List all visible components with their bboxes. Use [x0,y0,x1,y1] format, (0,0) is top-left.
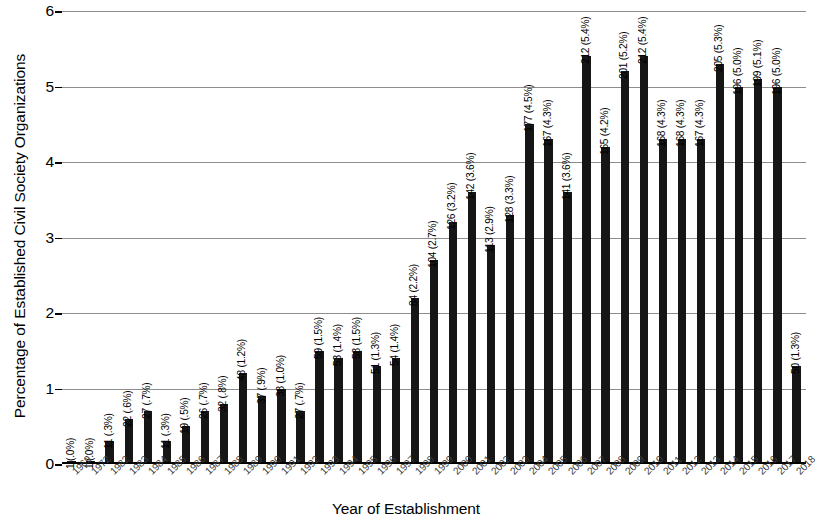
y-axis-tick-mark [55,11,62,13]
bar [353,351,361,464]
bar-value-label: 37 (.9%) [256,368,267,405]
y-axis-tick-label: 0 [28,455,54,473]
y-axis-tick-mark [55,238,62,240]
bar-value-label: 212 (5.4%) [637,17,648,64]
bar [239,373,247,464]
bar [792,366,800,464]
bar [640,56,648,464]
bar-value-label: 59 (1.5%) [313,317,324,359]
bar [277,389,285,465]
bar-value-label: 26 (.7%) [198,383,209,420]
bar-value-label: 104 (2.7%) [427,221,438,268]
y-axis-tick-label: 1 [28,380,54,398]
gridline [62,11,806,12]
bar-value-label: 22 (.6%) [122,390,133,427]
bar [601,147,609,464]
bar [525,124,533,464]
bar-value-label: 212 (5.4%) [580,17,591,64]
bar-value-label: 199 (5.1%) [752,40,763,87]
bar-value-label: 113 (2.9%) [484,206,495,253]
bar-value-label: 196 (5.0%) [732,47,743,94]
y-axis-tick-mark [55,87,62,89]
bar [582,56,590,464]
bar [392,358,400,464]
bar-value-label: 51 (1.3%) [370,332,381,374]
gridline [62,162,806,163]
bar-value-label: 165 (4.2%) [599,108,610,155]
bar-value-label: 141 (3.6%) [561,153,572,200]
bar-value-label: 11 (.3%) [160,414,171,450]
bar [754,79,762,464]
bar-value-label: 201 (5.2%) [618,32,629,79]
bar [773,87,781,465]
x-axis-title: Year of Establishment [0,500,812,518]
bar-value-label: 196 (5.0%) [771,47,782,94]
bar-value-label: 27 (.7%) [141,383,152,420]
bar [716,64,724,464]
bar-value-label: 54 (1.4%) [389,324,400,366]
y-axis-tick-label: 5 [28,78,54,96]
y-axis-tick-mark [55,389,62,391]
bar-value-label: 19 (.5%) [179,398,190,435]
bar [334,358,342,464]
bar [430,260,438,464]
bar-value-label: 58 (1.5%) [351,317,362,359]
bar-value-label: 38 (1.0%) [275,355,286,397]
bar [506,215,514,464]
bar [563,192,571,464]
y-axis-tick-mark [55,464,62,466]
bar-value-label: 177 (4.5%) [523,85,534,132]
bar [544,139,552,464]
bar [697,139,705,464]
plot-area: 1 (.0%)1 (.0%)11 (.3%)22 (.6%)27 (.7%)11… [62,11,806,464]
bar-value-label: 168 (4.3%) [656,100,667,147]
gridline [62,87,806,88]
bar [258,396,266,464]
bar [315,351,323,464]
bar-value-label: 50 (1.3%) [790,332,801,374]
bar-value-label: 128 (3.3%) [504,176,515,223]
bar-value-label: 167 (4.3%) [694,100,705,147]
bar-value-label: 205 (5.3%) [713,25,724,72]
bar-value-label: 48 (1.2%) [236,339,247,381]
bar-value-label: 84 (2.2%) [408,264,419,306]
bar [487,245,495,464]
y-axis-tick-mark [55,162,62,164]
y-axis-tick-mark [55,313,62,315]
bar-value-label: 32 (.8%) [217,375,228,412]
bar-value-label: 126 (3.2%) [446,183,457,230]
bar [373,366,381,464]
bar [659,139,667,464]
y-axis-tick-label: 2 [28,304,54,322]
bar-value-label: 142 (3.6%) [465,153,476,200]
bar [220,404,228,464]
bar [621,71,629,464]
bar-value-label: 11 (.3%) [103,414,114,450]
bar-value-label: 53 (1.4%) [332,324,343,366]
y-axis-tick-label: 3 [28,229,54,247]
y-axis-tick-label: 4 [28,153,54,171]
bar [449,222,457,464]
bar-value-label: 167 (4.3%) [542,100,553,147]
y-axis-tick-label: 6 [28,2,54,20]
bar-value-label: 168 (4.3%) [675,100,686,147]
bar-value-label: 27 (.7%) [294,383,305,420]
bar [735,87,743,465]
bar [468,192,476,464]
bar [411,298,419,464]
bar [678,139,686,464]
